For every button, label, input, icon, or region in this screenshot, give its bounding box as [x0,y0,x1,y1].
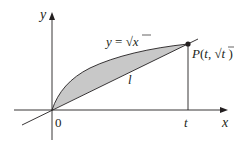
line-l-label: l [128,72,132,87]
origin-label: 0 [55,115,62,130]
x-axis-label: x [221,115,229,130]
y-axis-arrow-icon [49,12,55,20]
y-axis-label: y [38,7,47,22]
diagram-svg: y x 0 t l y = √x P(t, √t ) [0,0,250,150]
t-tick-label: t [184,115,188,130]
curve-label: y = √x [104,34,139,49]
point-p-label: P(t, √t ) [191,46,233,61]
diagram-figure: y x 0 t l y = √x P(t, √t ) [0,0,250,150]
line-l [22,39,198,125]
x-axis-arrow-icon [220,107,228,113]
point-p [185,41,190,46]
